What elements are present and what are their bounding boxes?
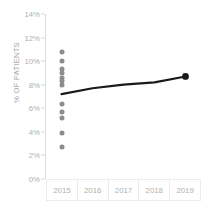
scatter-line-chart: % OF PATIENTS 14%12%10%8%6%4%2%0% 201520… <box>0 0 211 213</box>
y-axis-tick-labels: 14%12%10%8%6%4%2%0% <box>10 0 40 213</box>
y-tick-label: 14% <box>12 10 40 19</box>
scatter-dot <box>59 115 64 120</box>
scatter-dot <box>59 49 64 54</box>
y-tick-label: 10% <box>12 57 40 66</box>
scatter-dot <box>59 131 64 136</box>
x-axis-label-row: 20152016201720182019 <box>46 179 201 201</box>
y-tick-mark <box>41 37 45 38</box>
y-tick-mark <box>41 131 45 132</box>
y-tick-mark <box>41 155 45 156</box>
scatter-dot <box>59 82 64 87</box>
x-tick-label-2015: 2015 <box>47 180 78 200</box>
y-tick-mark <box>41 108 45 109</box>
scatter-dot <box>59 59 64 64</box>
x-tick-label-2019: 2019 <box>170 180 201 200</box>
plot-area <box>46 14 201 179</box>
y-tick-label: 2% <box>12 151 40 160</box>
y-tick-label: 4% <box>12 127 40 136</box>
x-tick-label-2018: 2018 <box>139 180 170 200</box>
trend-line <box>62 76 186 94</box>
trend-line-group <box>46 14 201 179</box>
y-tick-mark <box>41 14 45 15</box>
scatter-dot <box>59 109 64 114</box>
x-tick-label-2016: 2016 <box>78 180 109 200</box>
scatter-dot <box>59 101 64 106</box>
y-tick-label: 12% <box>12 33 40 42</box>
y-tick-label: 6% <box>12 104 40 113</box>
y-tick-mark <box>41 84 45 85</box>
y-tick-mark <box>41 179 45 180</box>
y-tick-mark <box>41 61 45 62</box>
trend-end-marker <box>182 73 189 80</box>
y-tick-label: 0% <box>12 175 40 184</box>
x-tick-label-2017: 2017 <box>109 180 140 200</box>
y-tick-label: 8% <box>12 80 40 89</box>
scatter-dot <box>59 145 64 150</box>
